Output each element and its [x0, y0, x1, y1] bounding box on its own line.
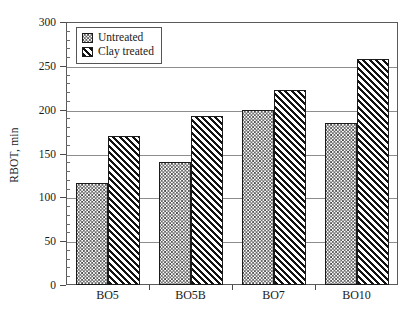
- y-tick-minor: [66, 162, 70, 163]
- y-tick-minor: [66, 75, 70, 76]
- y-tick-minor: [66, 267, 70, 268]
- y-tick-minor: [66, 145, 70, 146]
- y-tick-label: 0: [16, 279, 56, 291]
- y-tick-minor: [66, 83, 70, 84]
- y-tick-label: 250: [16, 60, 56, 72]
- x-tick-label: BO5: [68, 288, 148, 303]
- y-tick-minor: [66, 92, 70, 93]
- y-tick: [60, 285, 66, 286]
- bar-bo10-untreated: [325, 123, 357, 285]
- y-tick-minor: [66, 136, 70, 137]
- legend-label-untreated: Untreated: [98, 32, 143, 44]
- y-tick-minor: [66, 224, 70, 225]
- y-tick-minor: [66, 171, 70, 172]
- bar-bo5-clay-treated: [108, 136, 140, 285]
- x-tick-label: BO7: [234, 288, 314, 303]
- y-tick-minor: [66, 40, 70, 41]
- y-tick-minor: [66, 180, 70, 181]
- y-tick-minor: [66, 189, 70, 190]
- y-tick-minor: [66, 127, 70, 128]
- y-tick: [60, 110, 66, 111]
- y-tick-minor: [66, 118, 70, 119]
- x-tick-label: BO10: [317, 288, 397, 303]
- y-tick: [60, 154, 66, 155]
- y-tick-minor: [66, 232, 70, 233]
- y-tick-minor: [66, 31, 70, 32]
- y-tick-minor: [66, 101, 70, 102]
- y-tick-minor: [66, 206, 70, 207]
- y-tick-minor: [66, 57, 70, 58]
- y-tick-minor: [66, 259, 70, 260]
- legend: Untreated Clay treated: [76, 27, 162, 64]
- bar-bo7-clay-treated: [274, 90, 306, 285]
- bar-bo7-untreated: [242, 110, 274, 285]
- y-tick-label: 50: [16, 235, 56, 247]
- legend-item-untreated: Untreated: [82, 31, 154, 45]
- bar-bo5-untreated: [76, 183, 108, 285]
- y-tick: [60, 22, 66, 23]
- y-tick: [60, 197, 66, 198]
- y-tick: [60, 241, 66, 242]
- gridline: [67, 111, 397, 112]
- bar-bo5b-untreated: [159, 162, 191, 285]
- rbot-bar-chart: RBOT, min 050100150200250300 BO5BO5BBO7B…: [0, 0, 420, 311]
- y-tick-label: 200: [16, 104, 56, 116]
- legend-swatch-clay-treated-icon: [82, 47, 93, 57]
- gridline: [67, 67, 397, 68]
- legend-swatch-untreated-icon: [82, 33, 93, 43]
- y-tick-label: 100: [16, 191, 56, 203]
- bar-bo10-clay-treated: [357, 59, 389, 285]
- legend-item-clay-treated: Clay treated: [82, 45, 154, 59]
- y-tick-minor: [66, 276, 70, 277]
- legend-label-clay-treated: Clay treated: [98, 46, 154, 58]
- bar-bo5b-clay-treated: [191, 116, 223, 285]
- y-tick: [60, 66, 66, 67]
- x-tick-label: BO5B: [151, 288, 231, 303]
- y-tick-label: 300: [16, 16, 56, 28]
- y-tick-minor: [66, 250, 70, 251]
- y-tick-minor: [66, 215, 70, 216]
- y-tick-label: 150: [16, 148, 56, 160]
- y-tick-minor: [66, 48, 70, 49]
